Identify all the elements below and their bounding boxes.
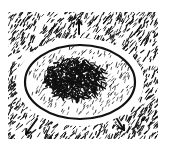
arrow-up-icon: [76, 20, 81, 34]
arrow-down-left-icon: [26, 119, 37, 134]
cell-illustration: [0, 0, 169, 147]
